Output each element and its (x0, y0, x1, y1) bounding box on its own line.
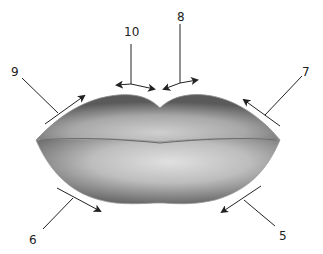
label-7: 7 (302, 66, 310, 78)
upper-lip (36, 95, 280, 142)
label-9: 9 (11, 66, 19, 78)
label-10: 10 (124, 26, 139, 38)
lower-lip (36, 139, 280, 204)
label-6: 6 (29, 234, 37, 246)
label-8: 8 (177, 11, 185, 23)
lips-diagram (0, 0, 323, 254)
label-5: 5 (279, 230, 287, 242)
